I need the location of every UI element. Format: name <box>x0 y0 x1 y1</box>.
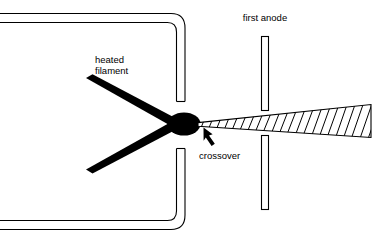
first-anode-label: first anode <box>243 12 287 23</box>
wehnelt-cylinder-upper-wall <box>0 14 185 102</box>
first-anode-plate-lower <box>262 136 269 210</box>
crossover-label: crossover <box>199 150 240 161</box>
electron-gun-diagram: heated filament first anode crossover <box>0 0 381 244</box>
wehnelt-cylinder-lower-wall <box>0 149 185 230</box>
heated-filament-label-line2: filament <box>95 65 129 76</box>
crossover-spot <box>168 113 201 136</box>
diagram-canvas: heated filament first anode crossover <box>0 0 381 244</box>
heated-filament <box>86 74 180 173</box>
electron-beam <box>196 96 381 150</box>
crossover-arrow <box>204 128 215 147</box>
heated-filament-label-line1: heated <box>95 54 124 65</box>
first-anode-plate-upper <box>262 37 269 111</box>
